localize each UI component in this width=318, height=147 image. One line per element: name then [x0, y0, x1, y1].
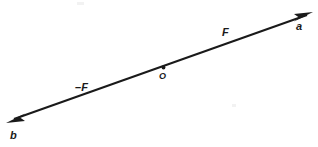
origin-point-dot [162, 66, 166, 70]
line-of-action [14, 15, 307, 119]
vector-diagram: a b F –F O [0, 0, 318, 147]
origin-label: O [159, 72, 166, 81]
vector-label-force: F [222, 27, 229, 38]
endpoint-label-a: a [296, 21, 302, 32]
arrow-left-icon [6, 114, 25, 124]
vector-label-negative-force: –F [75, 82, 88, 93]
endpoint-label-b: b [10, 130, 17, 141]
